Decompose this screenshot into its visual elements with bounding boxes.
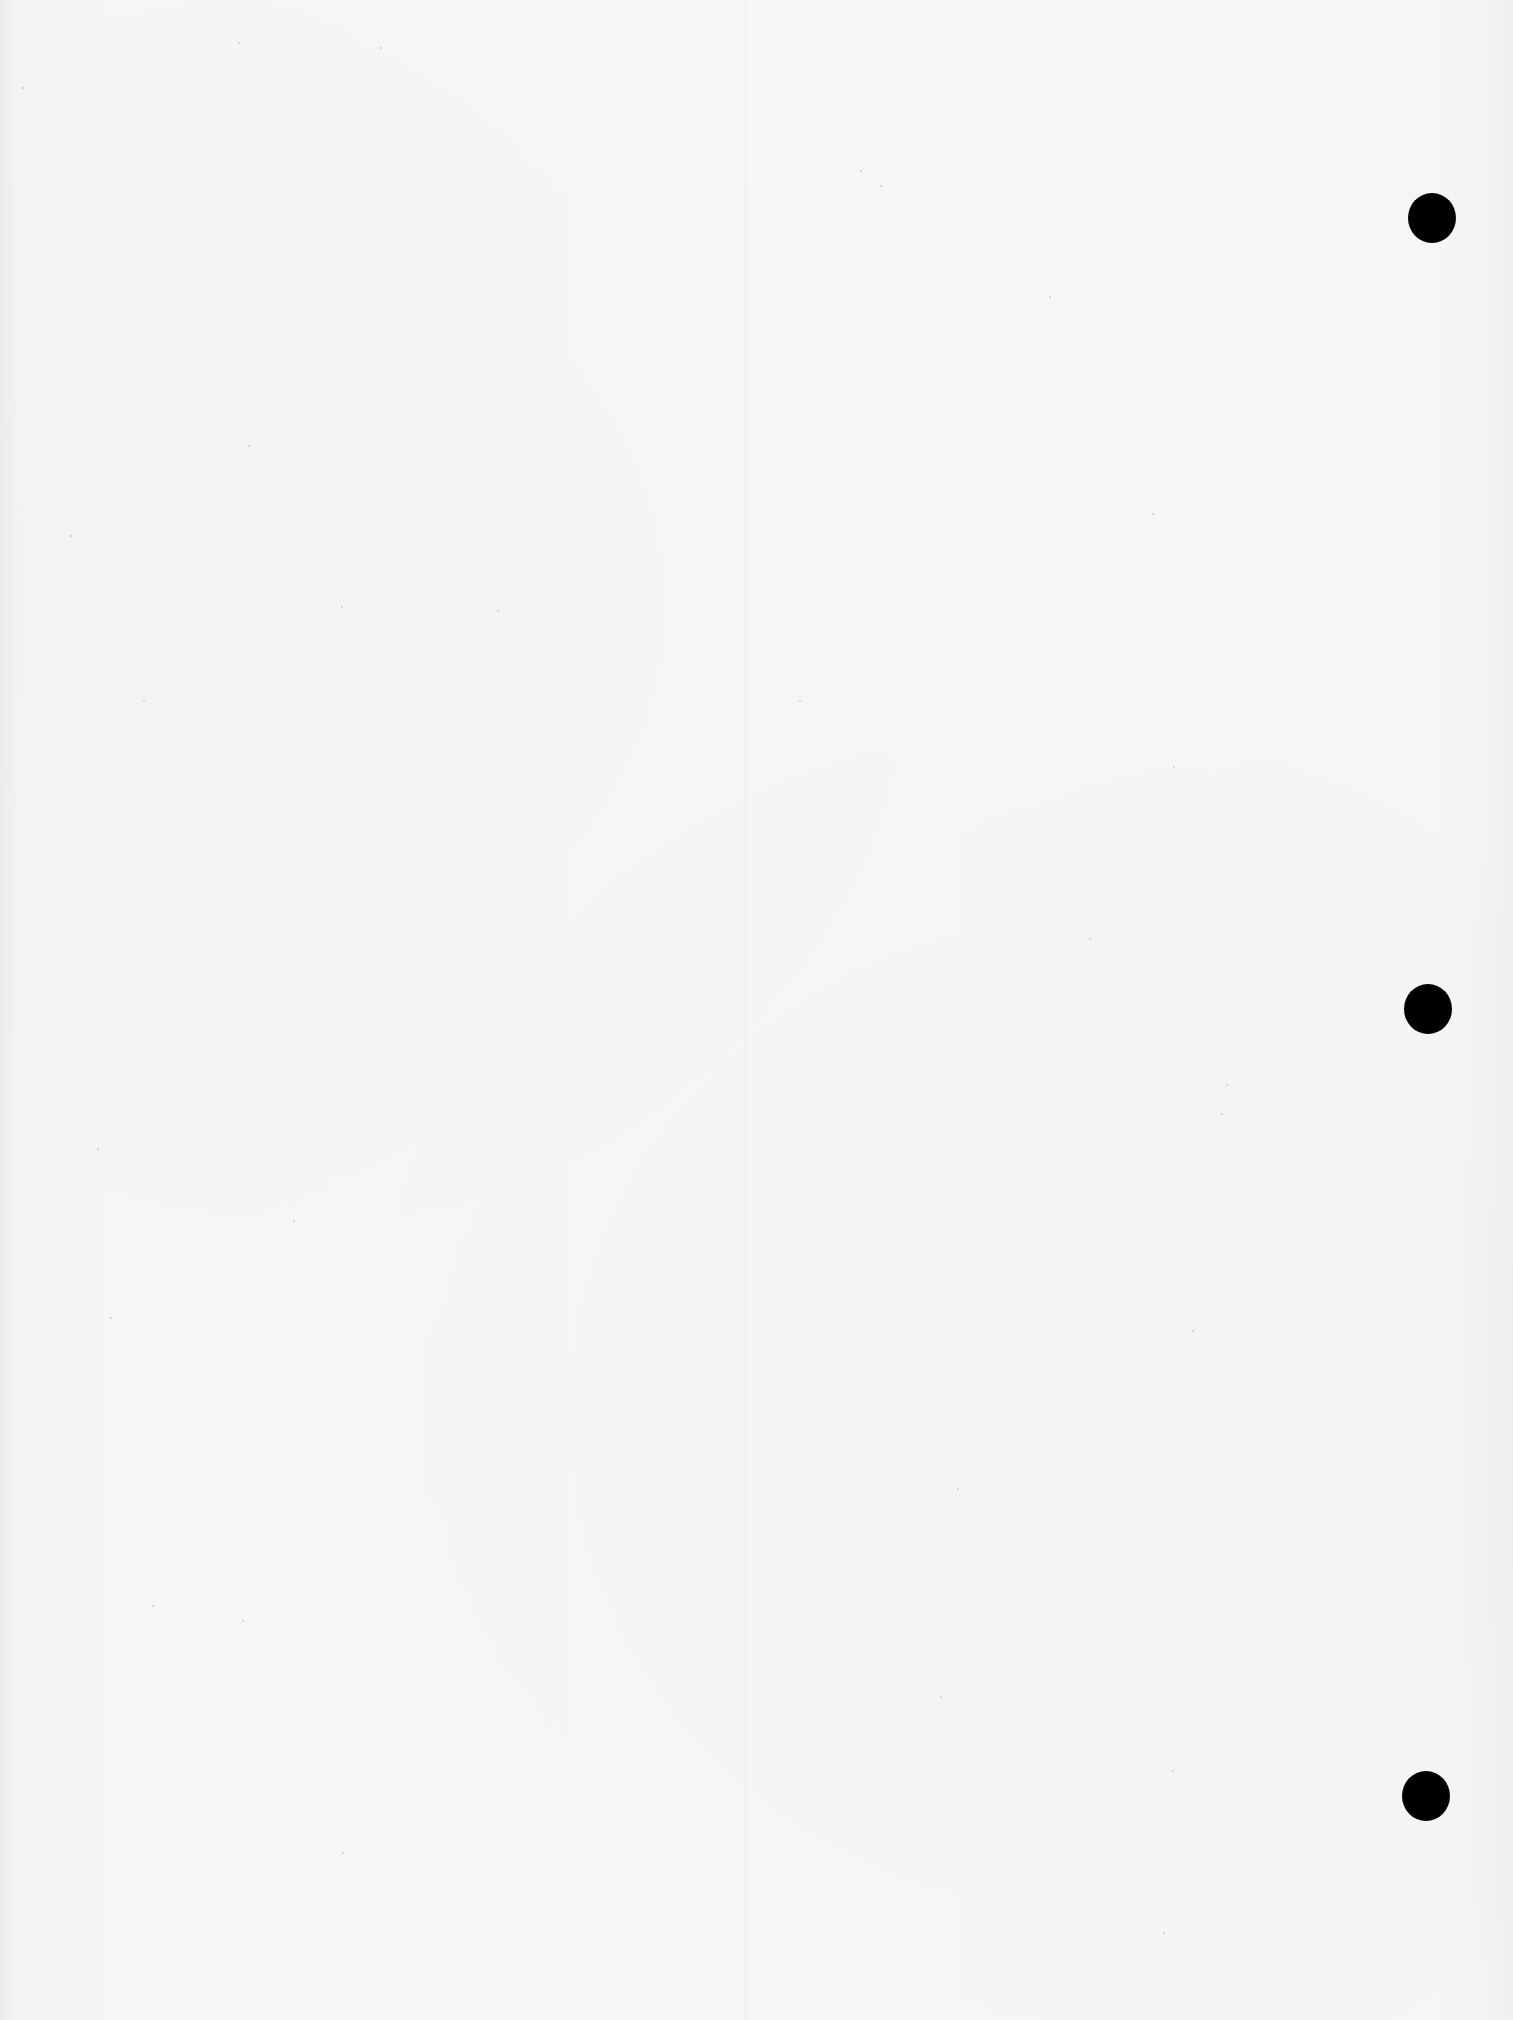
paper-speckle — [1173, 766, 1175, 768]
paper-speckle — [1192, 1330, 1194, 1332]
paper-speckle — [860, 170, 862, 172]
punch-hole-top — [1408, 193, 1456, 243]
paper-speckle — [242, 1620, 244, 1622]
paper-speckle — [799, 700, 801, 702]
punch-hole-bottom — [1402, 1771, 1450, 1821]
paper-speckle — [110, 1317, 112, 1319]
paper-speckle — [293, 1220, 295, 1222]
paper-speckle — [1049, 296, 1051, 298]
blank-paper-sheet — [0, 0, 1513, 2020]
paper-speckle — [880, 185, 882, 187]
paper-speckle — [497, 610, 499, 612]
paper-speckle — [248, 445, 250, 447]
paper-speckle — [1226, 1084, 1228, 1086]
paper-speckle — [22, 87, 24, 89]
paper-speckle — [1089, 938, 1091, 940]
paper-speckle — [152, 1605, 154, 1607]
paper-speckle — [238, 42, 240, 44]
paper-speckle — [70, 535, 72, 537]
fold-line — [744, 0, 747, 2020]
paper-speckle — [342, 1852, 344, 1854]
punch-hole-middle — [1404, 984, 1452, 1034]
paper-speckle — [1163, 1932, 1165, 1934]
paper-speckle — [957, 1488, 959, 1490]
paper-speckle — [143, 700, 145, 702]
paper-speckle — [1172, 1770, 1174, 1772]
paper-speckle — [380, 47, 382, 49]
paper-speckle — [1221, 1113, 1223, 1115]
paper-speckle — [341, 606, 343, 608]
paper-speckle — [940, 1696, 942, 1698]
paper-speckle — [1152, 513, 1154, 515]
paper-speckle — [97, 1148, 99, 1150]
